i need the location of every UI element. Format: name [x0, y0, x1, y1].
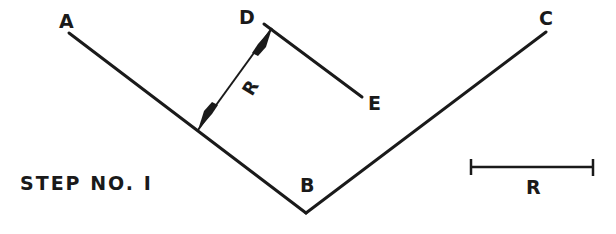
line-de — [264, 24, 362, 97]
point-label-a: A — [59, 10, 74, 32]
point-label-e: E — [368, 92, 381, 114]
scale-bar-label: R — [526, 176, 541, 198]
scale-bar-r: R — [471, 159, 593, 198]
dimension-r: R — [198, 28, 272, 130]
line-cb — [306, 32, 546, 213]
point-label-d: D — [239, 6, 255, 28]
construction-diagram: R R A D C E B STEP NO. I — [0, 0, 616, 234]
step-title: STEP NO. I — [20, 172, 153, 194]
point-label-b: B — [300, 174, 314, 196]
dimension-r-label: R — [238, 76, 263, 99]
arrowhead-bottom-icon — [198, 102, 218, 130]
point-label-c: C — [539, 7, 553, 29]
arrowhead-top-icon — [252, 28, 272, 56]
